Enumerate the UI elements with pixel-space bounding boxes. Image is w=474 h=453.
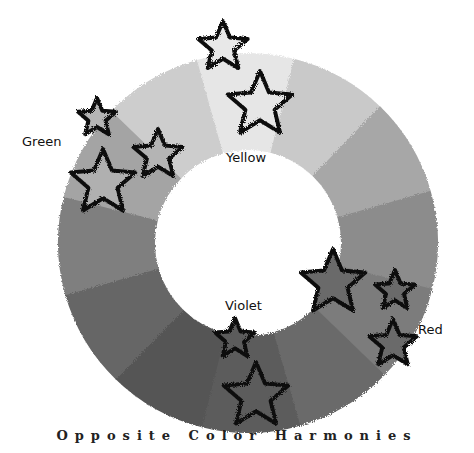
label-yellow: Yellow <box>226 150 266 165</box>
label-violet: Violet <box>225 298 262 313</box>
color-wheel <box>0 0 474 453</box>
label-green: Green <box>22 134 61 149</box>
diagram-title: Opposite Color Harmonies <box>0 428 474 443</box>
label-red: Red <box>418 322 443 337</box>
